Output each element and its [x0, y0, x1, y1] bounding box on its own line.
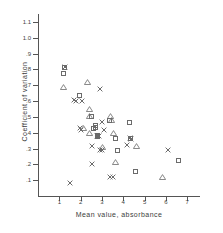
x-tick-label: 1 — [58, 199, 61, 205]
data-point-cross — [89, 162, 94, 167]
data-point-cross — [89, 144, 94, 149]
plot-area — [38, 14, 200, 196]
y-axis-title: Coefficient of variation — [21, 37, 28, 167]
y-tick-label: 1.1 — [23, 19, 31, 25]
y-tick — [33, 38, 38, 39]
data-point-square — [133, 169, 138, 174]
data-point-cross — [80, 99, 85, 104]
data-point-cross — [165, 147, 170, 152]
scatter-chart-figure: .1.2.3.4.5.6.7.8.91.01.1 1234567 Mean va… — [0, 0, 223, 233]
data-point-square — [61, 71, 66, 76]
data-point-triangle — [110, 132, 116, 137]
data-point-triangle — [133, 145, 139, 150]
data-point-square — [176, 158, 181, 163]
y-tick — [33, 133, 38, 134]
data-point-cross — [68, 181, 73, 186]
data-point-triangle — [86, 132, 92, 137]
x-tick-label: 3 — [100, 199, 103, 205]
y-tick — [33, 180, 38, 181]
y-tick — [33, 164, 38, 165]
data-point-cross — [96, 134, 101, 139]
y-tick-label: .1 — [26, 177, 31, 183]
x-axis-title: Mean value, absorbance — [38, 211, 200, 218]
x-tick-label: 4 — [122, 199, 125, 205]
data-point-cross — [62, 64, 67, 69]
x-tick-label: 5 — [143, 199, 146, 205]
data-point-cross — [102, 127, 107, 132]
y-tick — [33, 101, 38, 102]
data-point-triangle — [159, 176, 165, 181]
data-point-cross — [98, 87, 103, 92]
y-tick — [33, 22, 38, 23]
data-point-triangle — [112, 161, 118, 166]
data-point-triangle — [84, 81, 90, 86]
x-axis-line — [38, 196, 200, 197]
data-point-cross — [99, 148, 104, 153]
x-tick-label: 6 — [164, 199, 167, 205]
y-tick — [33, 85, 38, 86]
x-tick-label: 2 — [79, 199, 82, 205]
y-axis-line — [38, 14, 39, 196]
data-point-cross — [128, 136, 133, 141]
y-tick — [33, 117, 38, 118]
data-point-triangle — [60, 86, 66, 91]
data-point-cross — [74, 99, 79, 104]
x-tick-label: 7 — [186, 199, 189, 205]
data-point-cross — [125, 143, 130, 148]
data-point-square — [93, 125, 98, 130]
data-point-triangle — [108, 119, 114, 124]
y-tick — [33, 69, 38, 70]
y-tick — [33, 54, 38, 55]
data-point-square — [115, 148, 120, 153]
data-point-cross — [79, 127, 84, 132]
data-point-triangle — [86, 115, 92, 120]
data-point-cross — [110, 175, 115, 180]
data-point-square — [127, 120, 132, 125]
data-point-cross — [100, 120, 105, 125]
y-tick — [33, 149, 38, 150]
